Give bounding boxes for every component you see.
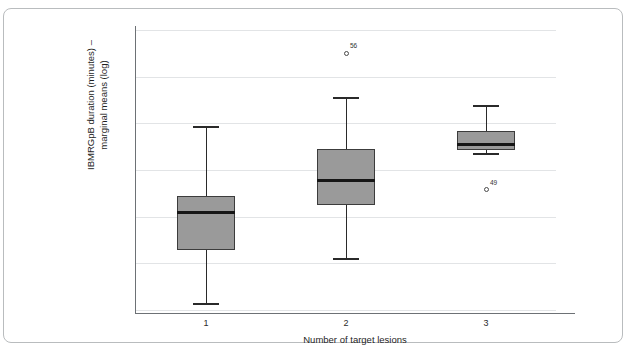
gridline bbox=[136, 30, 556, 31]
outlier-point bbox=[484, 187, 489, 192]
gridline bbox=[136, 77, 556, 78]
gridline bbox=[136, 263, 556, 264]
x-axis-title: Number of target lesions bbox=[135, 334, 575, 345]
whisker-upper bbox=[346, 97, 347, 149]
outlier-label: 56 bbox=[350, 42, 357, 49]
whisker-upper bbox=[486, 105, 487, 131]
outlier-point bbox=[344, 51, 349, 56]
median-line bbox=[457, 143, 515, 146]
median-line bbox=[177, 211, 235, 214]
whisker-cap-lower bbox=[473, 153, 499, 155]
whisker-lower bbox=[346, 205, 347, 258]
whisker-cap-upper bbox=[473, 105, 499, 107]
whisker-cap-lower bbox=[333, 258, 359, 260]
outlier-label: 49 bbox=[490, 179, 497, 186]
whisker-upper bbox=[206, 126, 207, 196]
x-axis-line bbox=[135, 313, 575, 314]
whisker-cap-lower bbox=[193, 303, 219, 305]
x-axis-tick-label: 3 bbox=[466, 318, 506, 328]
box-iqr bbox=[317, 149, 375, 204]
gridline bbox=[136, 310, 556, 311]
box-iqr bbox=[177, 196, 235, 250]
plot-area: 5649 bbox=[136, 30, 556, 310]
whisker-lower bbox=[206, 250, 207, 302]
y-axis-title: IBMRGpB duration (minutes) – marginal me… bbox=[84, 0, 110, 220]
box-iqr bbox=[457, 131, 515, 151]
x-axis-tick-label: 2 bbox=[326, 318, 366, 328]
whisker-cap-upper bbox=[333, 97, 359, 99]
y-axis-title-line1: IBMRGpB duration (minutes) – bbox=[84, 0, 97, 220]
y-axis-title-line2: marginal means (log) bbox=[97, 0, 110, 220]
median-line bbox=[317, 179, 375, 182]
figure-root: IBMRGpB duration (minutes) – marginal me… bbox=[0, 0, 631, 355]
x-axis-tick-label: 1 bbox=[186, 318, 226, 328]
whisker-cap-upper bbox=[193, 126, 219, 128]
